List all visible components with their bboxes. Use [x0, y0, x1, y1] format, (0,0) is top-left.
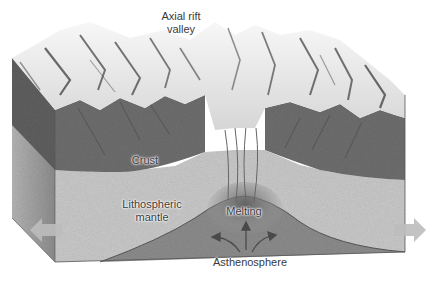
crust-label: Crust — [120, 154, 170, 167]
axial-rift-label-line2: valley — [143, 23, 219, 36]
rift-block-diagram — [0, 0, 440, 295]
melting-label: Melting — [212, 205, 276, 218]
axial-rift-valley-label: Axial rift valley — [143, 10, 219, 36]
axial-rift-label-line1: Axial rift — [143, 10, 219, 23]
asthenosphere-label: Asthenosphere — [200, 256, 300, 269]
lithospheric-label-line1: Lithospheric — [112, 198, 192, 211]
lithospheric-mantle-label: Lithospheric mantle — [112, 198, 192, 224]
lithospheric-label-line2: mantle — [112, 211, 192, 224]
